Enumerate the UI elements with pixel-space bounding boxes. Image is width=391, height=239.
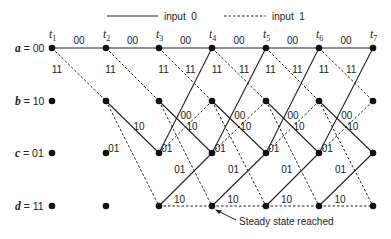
- edge-output-label: 10: [347, 121, 359, 132]
- trellis-node-a-t6: [316, 45, 323, 52]
- trellis-node-b-t5: [263, 98, 270, 105]
- time-label-t2: t2: [103, 27, 110, 43]
- edge-output-label: 10: [186, 121, 198, 132]
- trellis-node-a-t2: [103, 45, 110, 52]
- trellis-node-d-t3: [156, 203, 163, 210]
- edge-output-label: 01: [215, 143, 227, 154]
- trellis-node-c-t3: [156, 150, 163, 157]
- annotation-text: Steady state reached: [239, 216, 334, 227]
- edge-output-label: 00: [127, 35, 139, 46]
- trellis-node-c-t2: [103, 150, 110, 157]
- trellis-node-a-t7: [370, 45, 377, 52]
- trellis-node-d-t4: [209, 203, 216, 210]
- edge-output-label: 00: [288, 110, 300, 121]
- edge-output-label: 00: [180, 35, 192, 46]
- edge-output-label: 10: [334, 194, 346, 205]
- trellis-node-a-t3: [156, 45, 163, 52]
- edge-output-label: 00: [233, 35, 245, 46]
- edge-output-label: 11: [212, 64, 223, 75]
- edge-output-label: 10: [240, 121, 252, 132]
- arrow-head-icon: [215, 210, 222, 215]
- legend-solid-label: input 0: [164, 11, 197, 22]
- edge-output-label: 10: [227, 194, 239, 205]
- trellis-node-a-t4: [209, 45, 216, 52]
- trellis-node-c-t5: [263, 150, 270, 157]
- edge-output-label: 10: [133, 121, 145, 132]
- state-label-c: c = 01: [15, 147, 44, 159]
- trellis-edge-d-c-input-0: [212, 153, 266, 206]
- edge-output-label: 10: [281, 194, 293, 205]
- trellis-node-a-t5: [263, 45, 270, 52]
- edge-output-label: 00: [287, 35, 299, 46]
- edge-output-label: 11: [239, 64, 250, 75]
- trellis-node-b-t3: [156, 98, 163, 105]
- edge-output-label: 01: [322, 143, 334, 154]
- time-label-t7: t7: [370, 27, 377, 43]
- edge-output-label: 11: [158, 64, 169, 75]
- time-label-t1: t1: [49, 27, 56, 43]
- edge-output-label: 01: [268, 143, 280, 154]
- edge-output-label: 01: [228, 164, 240, 175]
- edge-output-label: 01: [108, 143, 120, 154]
- trellis-node-c-t1: [49, 150, 56, 157]
- time-label-t5: t5: [263, 27, 270, 43]
- edge-output-label: 11: [265, 64, 276, 75]
- state-label-a: a = 00: [15, 42, 45, 54]
- state-labels: a = 00b = 10c = 01d = 11: [15, 42, 45, 212]
- trellis-node-d-t1: [49, 203, 56, 210]
- edge-output-label: 01: [174, 164, 186, 175]
- trellis-node-c-t6: [316, 150, 323, 157]
- edge-output-label: 10: [293, 121, 305, 132]
- trellis-node-b-t4: [209, 98, 216, 105]
- trellis-edge-d-c-input-0: [319, 153, 373, 206]
- trellis-edge-d-c-input-0: [159, 153, 212, 206]
- trellis-node-c-t4: [209, 150, 216, 157]
- trellis-diagram: input 0 input 1 001100111001001110011100…: [0, 0, 391, 239]
- edge-output-label: 00: [234, 110, 246, 121]
- legend-dashed-label: input 1: [272, 11, 305, 22]
- edge-output-label: 00: [73, 35, 85, 46]
- edge-output-label: 11: [52, 64, 63, 75]
- edge-output-label: 00: [341, 110, 353, 121]
- edge-output-label: 11: [292, 64, 303, 75]
- edge-output-label: 11: [346, 64, 357, 75]
- legend: input 0 input 1: [107, 11, 305, 22]
- trellis-node-d-t7: [370, 203, 377, 210]
- edge-output-label: 10: [174, 194, 186, 205]
- time-labels: t1t2t3t4t5t6t7: [49, 27, 377, 43]
- annotation-arrow-line: [218, 211, 236, 220]
- edge-output-label: 00: [181, 110, 193, 121]
- time-label-t4: t4: [209, 27, 216, 43]
- trellis-node-b-t6: [316, 98, 323, 105]
- edge-output-label: 11: [105, 64, 116, 75]
- trellis-node-c-t7: [370, 150, 377, 157]
- edge-output-label: 11: [319, 64, 330, 75]
- steady-state-annotation: Steady state reached: [215, 210, 334, 228]
- state-label-b: b = 10: [15, 95, 45, 107]
- edge-output-label: 01: [281, 164, 293, 175]
- trellis-node-a-t1: [49, 45, 56, 52]
- edge-output-label: 11: [185, 64, 196, 75]
- time-label-t6: t6: [316, 27, 323, 43]
- trellis-node-b-t7: [370, 98, 377, 105]
- edge-output-label: 01: [161, 143, 173, 154]
- trellis-node-d-t6: [316, 203, 323, 210]
- edge-output-label: 00: [340, 35, 352, 46]
- state-label-d: d = 11: [15, 200, 44, 212]
- trellis-node-d-t5: [263, 203, 270, 210]
- trellis-edge-d-c-input-0: [266, 153, 319, 206]
- time-label-t3: t3: [156, 27, 163, 43]
- trellis-node-d-t2: [103, 203, 110, 210]
- edge-output-label: 01: [335, 164, 347, 175]
- trellis-node-b-t1: [49, 98, 56, 105]
- trellis-node-b-t2: [103, 98, 110, 105]
